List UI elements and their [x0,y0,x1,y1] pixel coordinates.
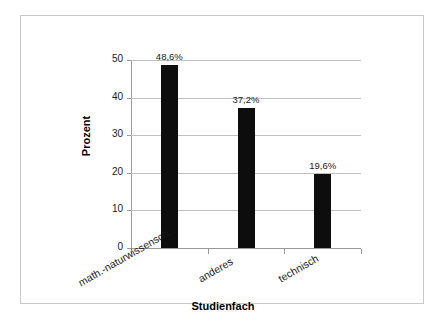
y-axis-title: Prozent [80,116,92,156]
y-tick-label-40: 40 [99,91,123,102]
bar[interactable] [238,108,255,248]
y-tick-label-50: 50 [99,53,123,64]
chart-frame: Prozent Studienfach 0102030405048,6%math… [20,15,424,304]
category-label: anderes [196,255,235,284]
y-tick-label-10: 10 [99,203,123,214]
y-tick-mark-50 [127,60,131,61]
bar[interactable] [314,174,331,248]
plot-area [131,60,361,248]
x-axis-title: Studienfach [21,300,425,312]
bar-value-label: 19,6% [293,160,353,171]
y-tick-mark-40 [127,98,131,99]
bar[interactable] [161,65,178,248]
y-tick-label-0: 0 [99,241,123,252]
gridline-0 [131,248,361,249]
x-tick-mark-2 [284,249,285,254]
y-tick-mark-20 [127,173,131,174]
x-tick-mark-3 [361,249,362,254]
bar-value-label: 48,6% [139,51,199,62]
category-label: technisch [276,252,320,285]
category-label: math.-naturwissensch. [76,225,173,288]
y-tick-label-20: 20 [99,166,123,177]
x-tick-mark-1 [208,249,209,254]
bar-value-label: 37,2% [216,94,276,105]
y-tick-mark-30 [127,135,131,136]
y-tick-label-30: 30 [99,128,123,139]
y-tick-mark-10 [127,210,131,211]
